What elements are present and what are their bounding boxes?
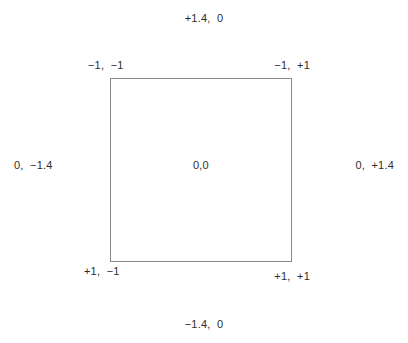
label-corner-top-left: −1, −1 (88, 59, 124, 72)
label-right-edge: 0, +1.4 (355, 159, 394, 172)
diagram-canvas: +1.4, 0 −1, −1 −1, +1 0, −1.4 0,0 0, +1.… (0, 0, 408, 343)
label-corner-bottom-right: +1, +1 (228, 270, 310, 283)
label-corner-top-right: −1, +1 (232, 59, 310, 72)
label-bottom-edge: −1.4, 0 (0, 318, 408, 331)
label-center-origin: 0,0 (110, 159, 292, 172)
label-left-edge: 0, −1.4 (14, 159, 53, 172)
label-corner-bottom-left: +1, −1 (84, 265, 120, 278)
label-top-edge: +1.4, 0 (0, 12, 408, 25)
